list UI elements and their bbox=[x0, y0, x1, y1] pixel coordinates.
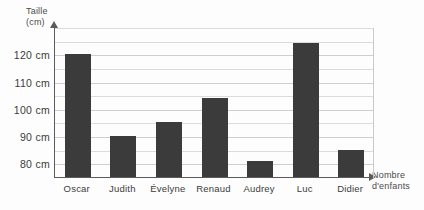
x-axis-title-line2: d'enfants bbox=[372, 181, 410, 192]
plot-area: 120 cm110 cm100 cm90 cm80 cm bbox=[54, 28, 373, 178]
y-axis-tick-label: 110 cm bbox=[15, 77, 50, 89]
x-axis-tick-label: Oscar bbox=[64, 183, 90, 194]
y-axis-title-line1: Taille bbox=[26, 6, 48, 16]
bar bbox=[65, 54, 91, 177]
bar-series bbox=[55, 28, 373, 177]
x-axis-tick-label: Audrey bbox=[243, 183, 274, 194]
x-axis-tick-labels: OscarJudithÉvelyneRenaudAudreyLucDidier bbox=[54, 183, 374, 199]
x-axis-tick-label: Didier bbox=[337, 183, 363, 194]
x-axis-tick-label: Évelyne bbox=[150, 183, 185, 194]
x-axis-title: Nombre d'enfants bbox=[372, 170, 410, 191]
y-axis-tick-label: 120 cm bbox=[14, 49, 50, 61]
chart-page: Taille (cm) Nombre d'enfants 120 cm110 c… bbox=[0, 0, 424, 210]
x-axis-tick-label: Luc bbox=[297, 183, 313, 194]
y-axis-arrow-icon bbox=[50, 21, 58, 28]
bar bbox=[156, 122, 182, 177]
y-axis-tick-label: 80 cm bbox=[20, 158, 50, 170]
x-axis-tick-label: Judith bbox=[109, 183, 136, 194]
bar bbox=[338, 150, 364, 177]
y-axis-title-line2: (cm) bbox=[26, 17, 48, 28]
bar bbox=[202, 98, 228, 177]
y-axis-title: Taille (cm) bbox=[26, 6, 48, 27]
y-axis-tick-label: 100 cm bbox=[14, 104, 50, 116]
x-axis-tick-label: Renaud bbox=[196, 183, 230, 194]
bar bbox=[293, 43, 319, 177]
bar bbox=[110, 136, 136, 177]
y-axis-tick-label: 90 cm bbox=[20, 131, 50, 143]
x-axis-title-line1: Nombre bbox=[372, 170, 405, 180]
bar bbox=[247, 161, 273, 177]
